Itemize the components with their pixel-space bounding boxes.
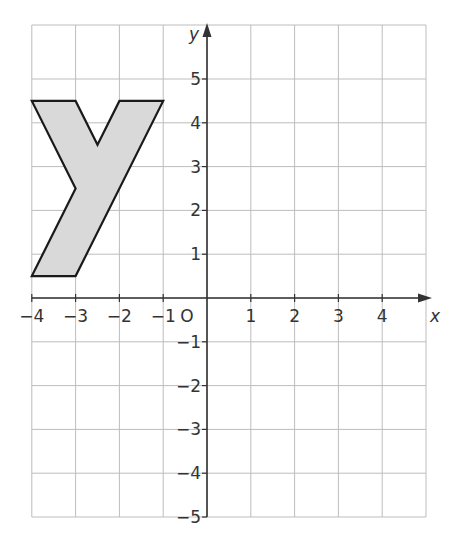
x-tick-label: 2: [289, 306, 300, 326]
x-tick-label: 3: [333, 306, 344, 326]
x-axis-arrow-icon: [418, 294, 432, 303]
letter-y-shape: [32, 101, 163, 276]
x-tick-label: 4: [377, 306, 388, 326]
origin-label: O: [180, 306, 193, 326]
y-tick-label: 2: [190, 200, 201, 220]
x-tick-label: −4: [19, 306, 44, 326]
axes: [32, 23, 432, 517]
y-axis-label: y: [188, 24, 200, 44]
y-tick-label: −5: [176, 507, 201, 527]
grid-lines: [32, 25, 426, 517]
y-tick-label: −3: [176, 419, 201, 439]
y-tick-label: −1: [176, 332, 201, 352]
x-axis-label: x: [429, 306, 441, 326]
y-tick-label: −4: [176, 463, 201, 483]
coordinate-grid: −4−3−2−1123454321−1−2−3−4−5 x y O: [0, 0, 451, 560]
x-tick-label: −2: [107, 306, 132, 326]
y-tick-label: −2: [176, 376, 201, 396]
x-tick-label: 1: [245, 306, 256, 326]
x-tick-label: −1: [151, 306, 176, 326]
y-tick-label: 3: [190, 157, 201, 177]
x-tick-label: −3: [63, 306, 88, 326]
y-tick-label: 4: [190, 113, 201, 133]
y-tick-label: 1: [190, 244, 201, 264]
y-tick-label: 5: [190, 69, 201, 89]
